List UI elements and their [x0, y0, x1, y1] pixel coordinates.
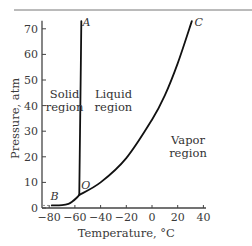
y-tick-label: 70	[24, 23, 38, 36]
phase-diagram: 010203040506070−80−60−40−2002040 ACBOSol…	[0, 0, 252, 246]
y-axis-label: Pressure, atm	[8, 78, 22, 159]
vapor-region-label: region	[169, 146, 207, 160]
vapor-region-label: Vapor	[170, 133, 205, 147]
point-label-c: C	[194, 16, 203, 29]
liquid-region-label: Liquid	[95, 87, 133, 101]
solid-region-label: region	[46, 100, 84, 114]
point-label-o: O	[81, 179, 90, 192]
x-tick-label: −60	[63, 211, 86, 224]
x-tick-label: 20	[171, 211, 185, 224]
x-tick-label: 40	[196, 211, 210, 224]
x-tick-label: −20	[115, 211, 138, 224]
labels: ACBOSolidregionLiquidregionVaporregion	[46, 16, 208, 203]
y-tick-label: 40	[24, 100, 38, 113]
y-tick-label: 10	[24, 176, 38, 189]
x-tick-label: −40	[89, 211, 112, 224]
x-tick-label: −80	[38, 211, 61, 224]
point-label-b: B	[49, 190, 58, 203]
y-tick-label: 50	[24, 74, 38, 87]
point-label-a: A	[82, 16, 91, 29]
liquid-region-label: region	[95, 100, 133, 114]
y-tick-label: 20	[24, 151, 38, 164]
y-tick-label: 60	[24, 48, 38, 61]
y-tick-label: 30	[24, 125, 38, 138]
x-tick-label: 0	[149, 211, 156, 224]
x-axis-label: Temperature, °C	[78, 226, 175, 240]
solid-region-label: Solid	[50, 87, 80, 101]
